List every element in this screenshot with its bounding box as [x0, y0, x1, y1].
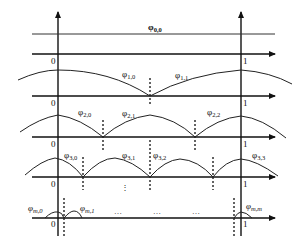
- svg-text:0: 0: [51, 179, 56, 189]
- label-phi-3-1: φ3,1: [122, 150, 135, 161]
- svg-text:0: 0: [51, 219, 56, 229]
- horizontal-ellipsis-3: …: [192, 207, 200, 216]
- svg-text:0: 0: [51, 56, 56, 66]
- svg-text:1: 1: [243, 56, 248, 66]
- horizontal-ellipsis-2: …: [153, 207, 161, 216]
- svg-text:1: 1: [243, 139, 248, 149]
- horizontal-ellipsis-1: …: [114, 207, 122, 216]
- vertical-ellipsis: ⋮: [121, 183, 129, 192]
- svg-text:0: 0: [51, 139, 56, 149]
- horizontal-axes: [32, 54, 275, 218]
- label-phi-3-2: φ3,2: [153, 150, 166, 161]
- label-phi-3-0: φ3,0: [64, 150, 77, 161]
- level-3-functions: [25, 140, 278, 190]
- basis-function-diagram: φ0,0 0 1 0 1 0 1 0 1 0 1 φ1,0 φ1,1 φ2,0 …: [0, 0, 306, 244]
- svg-text:1: 1: [243, 98, 248, 108]
- level-m-functions: [45, 198, 252, 236]
- label-phi-0-0: φ0,0: [148, 22, 162, 33]
- level-1-functions: [18, 70, 292, 104]
- label-phi-2-2: φ2,2: [207, 107, 220, 118]
- label-phi-1-0: φ1,0: [122, 69, 135, 80]
- label-phi-3-3: φ3,3: [252, 150, 265, 161]
- label-phi-1-1: φ1,1: [175, 70, 188, 81]
- svg-text:1: 1: [243, 219, 248, 229]
- label-phi-2-1: φ2,1: [122, 108, 135, 119]
- label-phi-m-m: φm,m: [246, 201, 262, 212]
- svg-text:0: 0: [51, 98, 56, 108]
- label-phi-2-0: φ2,0: [78, 107, 91, 118]
- label-phi-m-1: φm,1: [80, 203, 95, 214]
- label-phi-m-0: φm,0: [28, 203, 43, 214]
- svg-text:1: 1: [243, 179, 248, 189]
